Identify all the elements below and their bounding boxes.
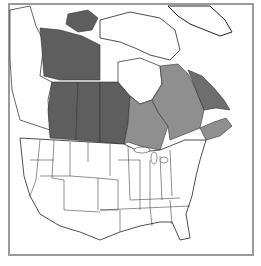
alberta — [48, 82, 78, 140]
arctic-islands — [100, 12, 180, 60]
maritimes — [200, 118, 232, 140]
victoria-island — [66, 10, 98, 32]
northwest-territories — [40, 28, 100, 80]
greenland — [168, 6, 232, 36]
saskatchewan — [76, 82, 100, 142]
united-states — [20, 138, 206, 240]
north-america-map — [0, 0, 261, 266]
manitoba — [100, 82, 130, 144]
